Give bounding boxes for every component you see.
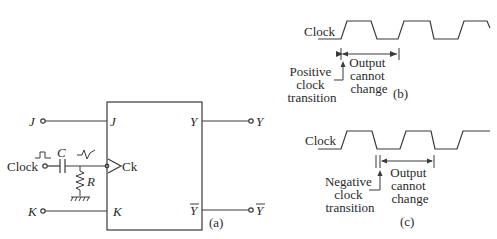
pulse-waveform-icon <box>35 152 51 158</box>
panel-b-output-label: Output cannot change <box>349 55 388 96</box>
y-bar-output-terminal[interactable] <box>249 208 253 212</box>
capacitor-label: C <box>57 145 66 160</box>
resistor-symbol <box>76 166 84 196</box>
panel-a-circuit: J J Clock C R <box>7 102 265 230</box>
panel-b-clock-label: Clock <box>304 24 336 39</box>
y-output-terminal[interactable] <box>249 119 253 123</box>
panel-c-pointer-arrowhead <box>378 170 383 176</box>
panel-c-negative-edge: Clock Negative clock transition Output c… <box>305 131 490 229</box>
ground-icon <box>71 197 90 201</box>
k-pin-label: K <box>112 204 123 219</box>
j-pin-label: J <box>110 114 117 129</box>
spike-waveform-icon <box>77 150 95 159</box>
clock-input-label: Clock <box>7 159 39 174</box>
panel-c-caption: (c) <box>400 214 414 229</box>
panel-a-caption: (a) <box>209 215 223 230</box>
resistor-label: R <box>86 174 95 189</box>
panel-c-dim-arrowhead-right <box>427 159 433 164</box>
y-pin-label: Y <box>190 114 199 129</box>
k-input-terminal[interactable] <box>41 209 45 213</box>
y-bar-output-label: Y <box>256 203 265 218</box>
panel-b-transition-label: Positive clock transition <box>287 64 337 105</box>
j-input-terminal[interactable] <box>41 119 45 123</box>
k-input-label: K <box>27 204 38 219</box>
panel-b-pointer-arrowhead <box>341 61 346 67</box>
panel-c-clock-waveform <box>318 131 490 149</box>
clock-input-terminal[interactable] <box>43 164 47 168</box>
y-bar-pin-label: Y <box>190 203 199 218</box>
panel-b-positive-edge: Clock Positive clock transition Output c… <box>287 21 490 105</box>
ck-pin-label: Ck <box>122 159 138 174</box>
jk-flipflop-diagram: J J Clock C R <box>0 0 497 239</box>
j-input-label: J <box>29 114 36 129</box>
y-output-label: Y <box>256 114 265 129</box>
panel-c-clock-label: Clock <box>305 133 337 148</box>
panel-c-transition-label: Negative clock transition <box>325 174 375 215</box>
clock-edge-triangle <box>108 159 121 173</box>
panel-c-dim-arrowhead-left <box>381 159 387 164</box>
capacitor-symbol <box>60 159 65 173</box>
panel-c-output-label: Output cannot change <box>390 165 429 206</box>
panel-b-caption: (b) <box>393 86 408 101</box>
panel-b-clock-waveform <box>318 21 490 39</box>
panel-b-dim-arrowhead-left <box>342 52 348 57</box>
